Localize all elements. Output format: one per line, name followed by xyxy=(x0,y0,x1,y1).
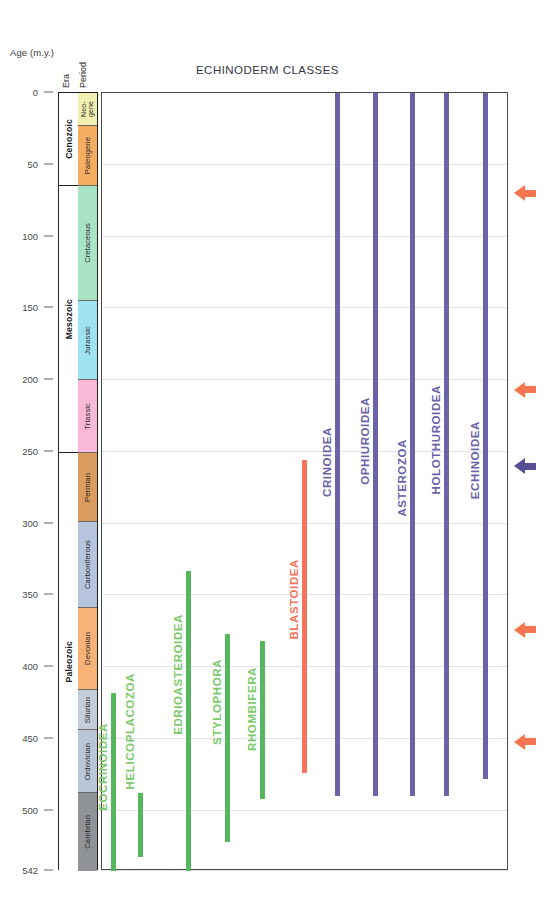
period-cell-label: Silurian xyxy=(84,697,92,723)
period-cell-carboniferous: Carboniferous xyxy=(78,522,97,608)
y-tick-mark xyxy=(44,235,53,236)
arrow-glyph xyxy=(514,382,536,398)
period-cell-label: Jurassic xyxy=(84,326,92,355)
y-tick-mark xyxy=(44,163,53,164)
range-label-ophiuroidea: OPHIUROIDEA xyxy=(360,397,372,485)
y-tick-label: 150 xyxy=(0,302,38,313)
period-cell-triassic: Triassic xyxy=(78,380,97,453)
range-bar-holothuroidea xyxy=(444,93,449,796)
y-tick-label: 200 xyxy=(0,374,38,385)
echinoderm-range-chart: Age (m.y.) Era Period ECHINODERM CLASSES… xyxy=(0,0,558,913)
period-cell-label: Devonian xyxy=(84,632,92,665)
y-tick-mark xyxy=(44,594,53,595)
range-label-blastoidea: BLASTOIDEA xyxy=(289,559,301,640)
period-cell-silurian: Silurian xyxy=(78,690,97,730)
period-cell-label: Ordovician xyxy=(84,743,92,780)
period-cell-label: Permian xyxy=(84,473,92,502)
y-tick-label: 500 xyxy=(0,804,38,815)
y-axis-label: Age (m.y.) xyxy=(10,47,54,58)
arrow-glyph xyxy=(514,185,536,201)
range-bar-eocrinoidea xyxy=(111,693,116,871)
y-tick-label: 300 xyxy=(0,517,38,528)
y-tick-label: 400 xyxy=(0,661,38,672)
range-label-edrioasteroidea: EDRIOASTEROIDEA xyxy=(173,614,185,735)
range-bar-echinoidea xyxy=(483,93,488,779)
period-cell-devonian: Devonian xyxy=(78,608,97,690)
arrow-tail xyxy=(524,386,536,393)
era-cell-label: Mesozoic xyxy=(64,299,74,339)
period-cell-neogene: Neo- gene xyxy=(78,93,97,126)
range-label-helicoplacozoa: HELICOPLACOZOA xyxy=(125,673,137,789)
range-label-eocrinoidea: EOCRINOIDEA xyxy=(98,723,110,811)
plot-area: EOCRINOIDEAHELICOPLACOZOAEDRIOASTEROIDEA… xyxy=(101,92,508,870)
range-bar-blastoidea xyxy=(302,460,307,773)
y-tick-mark xyxy=(44,379,53,380)
y-tick-label: 50 xyxy=(0,158,38,169)
y-tick-label: 250 xyxy=(0,445,38,456)
y-tick-label: 450 xyxy=(0,732,38,743)
period-cell-label: Cretaceous xyxy=(84,223,92,263)
period-cell-jurassic: Jurassic xyxy=(78,301,97,380)
period-cell-label: Cambrian xyxy=(84,815,92,849)
chart-title: ECHINODERM CLASSES xyxy=(196,64,339,76)
era-cell-label: Paleozoic xyxy=(64,641,74,682)
y-tick-label: 350 xyxy=(0,589,38,600)
y-tick-mark xyxy=(44,666,53,667)
era-cell-mesozoic: Mesozoic xyxy=(59,186,78,453)
arrow-glyph xyxy=(514,622,536,638)
range-bar-asterozoa xyxy=(410,93,415,796)
era-cell-cenozoic: Cenozoic xyxy=(59,93,78,186)
period-cell-label: Carboniferous xyxy=(84,540,92,589)
range-bar-rhombifera xyxy=(260,641,265,799)
period-cell-ordovician: Ordovician xyxy=(78,730,97,793)
y-tick-mark xyxy=(44,809,53,810)
range-label-stylophora: STYLOPHORA xyxy=(212,659,224,745)
y-tick-label: 542 xyxy=(0,865,38,876)
arrow-glyph xyxy=(514,458,536,474)
arrow-tail xyxy=(524,463,536,470)
arrow-glyph xyxy=(514,734,536,750)
range-bar-ophiuroidea xyxy=(373,93,378,796)
y-tick-label: 0 xyxy=(0,87,38,98)
y-tick-mark xyxy=(44,92,53,93)
y-tick-mark xyxy=(44,737,53,738)
y-tick-mark xyxy=(44,870,53,871)
y-tick-mark xyxy=(44,450,53,451)
range-label-crinoidea: CRINOIDEA xyxy=(322,427,334,497)
period-column-header: Period xyxy=(79,40,88,88)
y-tick-mark xyxy=(44,307,53,308)
range-label-asterozoa: ASTEROZOA xyxy=(397,439,409,517)
gridline xyxy=(101,870,508,871)
period-cell-paleogene: Paleogene xyxy=(78,126,97,186)
range-label-holothuroidea: HOLOTHUROIDEA xyxy=(431,385,443,494)
stratigraphic-column: CenozoicMesozoicPaleozoic Neo- genePaleo… xyxy=(58,92,98,870)
period-cell-permian: Permian xyxy=(78,453,97,522)
era-column-header: Era xyxy=(62,48,71,88)
period-cell-label: Triassic xyxy=(84,403,92,430)
y-tick-label: 100 xyxy=(0,230,38,241)
range-bar-edrioasteroidea xyxy=(186,571,191,871)
range-bar-helicoplacozoa xyxy=(138,793,143,856)
era-cell-label: Cenozoic xyxy=(64,119,74,159)
range-bar-stylophora xyxy=(225,634,230,842)
period-cell-cretaceous: Cretaceous xyxy=(78,186,97,301)
period-cell-label: Neo- gene xyxy=(80,101,95,117)
range-label-echinoidea: ECHINOIDEA xyxy=(470,421,482,499)
arrow-tail xyxy=(524,738,536,745)
period-cell-label: Paleogene xyxy=(84,137,92,174)
range-label-rhombifera: RHOMBIFERA xyxy=(247,667,259,751)
range-bar-crinoidea xyxy=(335,93,340,796)
arrow-tail xyxy=(524,190,536,197)
era-cell-paleozoic: Paleozoic xyxy=(59,453,78,871)
y-tick-mark xyxy=(44,522,53,523)
arrow-tail xyxy=(524,626,536,633)
period-cell-cambrian: Cambrian xyxy=(78,793,97,871)
